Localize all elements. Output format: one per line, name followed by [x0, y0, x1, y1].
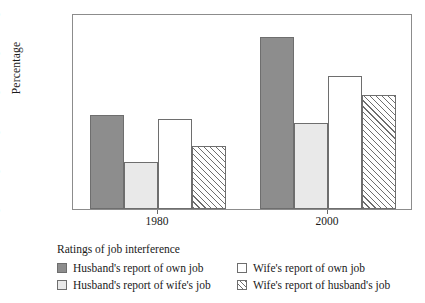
bar — [328, 76, 362, 209]
x-tick-mark — [157, 210, 158, 214]
bar — [158, 119, 192, 209]
bar — [294, 123, 328, 209]
legend-item: Wife's report of husband's job — [237, 279, 417, 291]
legend-title: Ratings of job interference — [57, 243, 417, 255]
bar-chart: Percentage 01020304050 19802000 Ratings … — [0, 0, 425, 303]
legend-label: Husband's report of own job — [73, 262, 203, 274]
legend-label: Wife's report of own job — [253, 262, 365, 274]
legend-item: Wife's report of own job — [237, 262, 417, 274]
legend-item: Husband's report of wife's job — [57, 279, 237, 291]
bar — [260, 37, 294, 209]
legend-swatch-icon — [237, 280, 247, 290]
bar — [362, 95, 396, 209]
x-tick-label: 1980 — [112, 215, 202, 227]
bars-layer — [73, 15, 411, 209]
bar — [192, 146, 226, 209]
x-tick-label: 2000 — [282, 215, 372, 227]
bar — [124, 162, 158, 209]
legend: Ratings of job interference Husband's re… — [57, 243, 417, 293]
y-axis-title: Percentage — [10, 8, 22, 128]
legend-label: Wife's report of husband's job — [253, 279, 390, 291]
legend-item: Husband's report of own job — [57, 262, 237, 274]
legend-swatch-icon — [57, 280, 67, 290]
x-tick-mark — [327, 210, 328, 214]
bar — [90, 115, 124, 209]
legend-items: Husband's report of own jobWife's report… — [57, 259, 417, 293]
legend-label: Husband's report of wife's job — [73, 279, 211, 291]
legend-swatch-icon — [237, 263, 247, 273]
plot-area — [72, 14, 412, 210]
legend-swatch-icon — [57, 263, 67, 273]
